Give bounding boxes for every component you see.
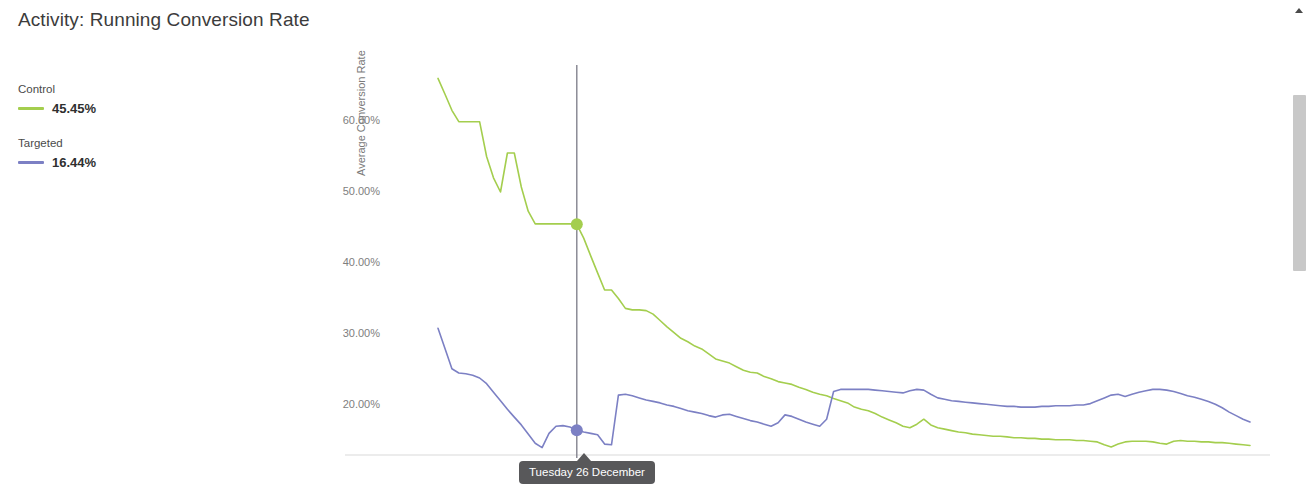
scroll-up-arrow-icon[interactable]: [1295, 8, 1303, 13]
marker-control[interactable]: [571, 218, 583, 230]
chart-legend: Control 45.45% Targeted 16.44%: [18, 82, 218, 190]
tooltip-arrow-icon: [577, 453, 591, 461]
legend-item-control[interactable]: Control 45.45%: [18, 82, 218, 116]
legend-swatch-targeted-icon: [18, 161, 44, 164]
legend-swatch-control-icon: [18, 107, 44, 110]
series-line-control: [438, 78, 1250, 447]
series-line-targeted: [438, 328, 1250, 447]
legend-value-targeted: 16.44%: [52, 155, 96, 170]
legend-label-targeted: Targeted: [18, 136, 218, 151]
legend-item-targeted[interactable]: Targeted 16.44%: [18, 136, 218, 170]
legend-label-control: Control: [18, 82, 218, 97]
chart-plot-area[interactable]: [345, 40, 1270, 465]
legend-value-control: 45.45%: [52, 101, 96, 116]
page-title: Activity: Running Conversion Rate: [18, 9, 310, 31]
marker-targeted[interactable]: [571, 424, 583, 436]
scrollbar-thumb[interactable]: [1293, 95, 1306, 271]
x-axis-tooltip: Tuesday 26 December: [519, 461, 655, 484]
vertical-scrollbar[interactable]: [1291, 0, 1308, 483]
conversion-rate-line-chart[interactable]: [345, 40, 1270, 465]
